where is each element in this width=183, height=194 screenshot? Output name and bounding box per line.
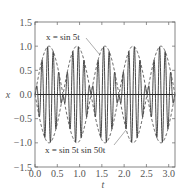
y-tick-label: 1.5: [20, 17, 33, 28]
x-tick-label: 1.5: [96, 168, 109, 179]
y-tick-label: −1.5: [14, 162, 32, 173]
x-tick-label: 2.5: [140, 168, 153, 179]
y-tick-label: −0.5: [14, 113, 32, 124]
chart: 0.00.51.01.52.02.53.01.51.00.50.0−0.5−1.…: [0, 0, 183, 194]
y-tick-label: 0.5: [20, 65, 33, 76]
y-tick-label: 1.0: [20, 41, 33, 52]
plot-area: [35, 46, 175, 143]
annotation-sin5t: x = sin 5t: [46, 32, 80, 42]
x-tick-label: 0.5: [51, 168, 64, 179]
x-tick-label: 3.0: [162, 168, 175, 179]
annotation-leader-bottom: [114, 130, 126, 145]
x-tick-label: 1.0: [73, 168, 86, 179]
x-axis-label: t: [102, 179, 105, 190]
annotation-leader-top: [86, 38, 100, 55]
annotation-product: x = sin 5t sin 50t: [45, 145, 106, 155]
y-tick-label: −1.0: [14, 137, 32, 148]
y-tick-label: 0.0: [20, 89, 33, 100]
y-axis-label: x: [5, 89, 11, 100]
x-tick-label: 2.0: [118, 168, 131, 179]
